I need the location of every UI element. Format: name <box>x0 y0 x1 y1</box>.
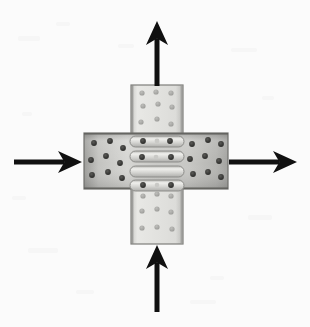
bolt-hole <box>140 103 145 108</box>
bolt-hole <box>140 193 145 198</box>
arrow-shaft <box>14 160 65 165</box>
bolt-hole <box>218 174 224 180</box>
bolt-hole <box>103 153 109 159</box>
bolt-hole <box>91 140 97 146</box>
arrow-shaft <box>155 38 160 86</box>
bolt-hole <box>187 156 193 162</box>
bolt-hole <box>168 209 173 214</box>
bolt-hole <box>154 191 159 196</box>
bolt-hole <box>105 169 111 175</box>
arrow-shaft <box>229 160 280 165</box>
bolt-hole <box>138 119 143 124</box>
bolt-hole <box>189 141 195 147</box>
bolt-hole <box>216 158 222 164</box>
bolt-hole <box>168 90 173 95</box>
bolt-hole <box>190 171 196 177</box>
bolt-hole <box>120 145 126 151</box>
bolt-hole <box>154 224 159 229</box>
figure-canvas: Bolted cruciform steel plate splice conn… <box>0 0 310 327</box>
bolt-hole <box>205 169 211 175</box>
cruciform-connection-diagram <box>0 0 310 327</box>
bolt-hole <box>169 104 174 109</box>
bolt-hole <box>139 225 144 230</box>
bolt-hole <box>154 116 159 121</box>
bolt-hole <box>154 206 159 211</box>
bolt-hole <box>169 226 174 231</box>
bolt-hole <box>168 121 173 126</box>
bolt-hole <box>218 141 224 147</box>
bolt-hole <box>168 193 173 198</box>
arrow-shaft <box>155 262 160 312</box>
bolt-hole <box>88 157 94 163</box>
bolt-hole <box>205 137 211 143</box>
bolt-hole <box>89 172 95 178</box>
bolt-hole <box>107 138 113 144</box>
bolt-hole <box>139 90 144 95</box>
bolt-hole <box>155 101 160 106</box>
bolt-hole <box>139 208 144 213</box>
bolt-hole <box>202 153 208 159</box>
bolt-hole <box>153 89 158 94</box>
bolt-hole <box>119 175 125 181</box>
bolt-hole <box>117 160 123 166</box>
